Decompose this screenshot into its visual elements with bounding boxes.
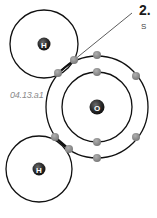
water-molecule-diagram: H O H xyxy=(0,0,157,218)
electron xyxy=(93,138,101,146)
electron xyxy=(93,154,101,162)
electron xyxy=(93,68,101,76)
electron xyxy=(65,145,73,153)
oxygen-symbol: O xyxy=(94,104,100,113)
figure-id-label: 04.13.a1 xyxy=(10,90,43,100)
leader-line xyxy=(74,13,132,60)
hydrogen-bottom-symbol: H xyxy=(36,166,42,175)
hydrogen-atom-bottom: H xyxy=(6,136,72,202)
hydrogen-top-symbol: H xyxy=(41,41,47,50)
electron xyxy=(51,133,59,141)
electron xyxy=(54,69,62,77)
electron xyxy=(132,72,140,80)
electron xyxy=(93,51,101,59)
electron xyxy=(132,133,140,141)
step-text: S xyxy=(141,22,146,32)
hydrogen-atom-top: H xyxy=(10,10,78,78)
electron xyxy=(70,56,78,64)
step-number: 2. xyxy=(139,2,151,18)
